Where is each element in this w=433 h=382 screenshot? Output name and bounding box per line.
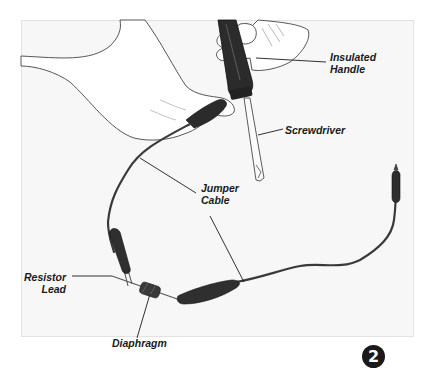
label-screwdriver: Screwdriver — [285, 124, 345, 136]
label-insulated-handle: Insulated Handle — [330, 51, 376, 75]
diaphragm-icon — [139, 281, 162, 299]
step-number-badge: 2 — [362, 345, 385, 368]
alligator-clip-bottom-icon — [177, 280, 239, 304]
alligator-clip-right-icon — [392, 170, 400, 202]
label-resistor-lead: Resistor Lead — [22, 271, 66, 295]
label-jumper-cable: Jumper Cable — [201, 182, 239, 206]
label-diaphragm: Diaphragm — [112, 337, 167, 349]
